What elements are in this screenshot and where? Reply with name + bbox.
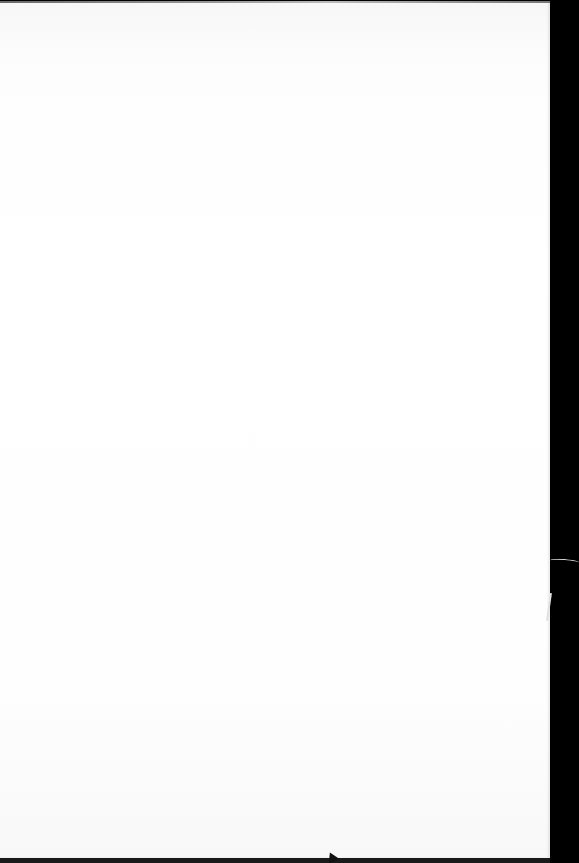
blank-page (0, 1, 550, 858)
page-bottom-edge (0, 858, 550, 863)
scanned-document (0, 0, 579, 863)
scan-artifact (550, 558, 579, 565)
page-top-edge (0, 1, 550, 3)
